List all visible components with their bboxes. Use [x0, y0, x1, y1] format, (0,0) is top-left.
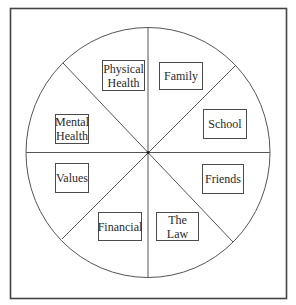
- label-family: Family: [159, 62, 203, 90]
- label-the-law: The Law: [156, 212, 199, 241]
- label-physical-health: Physical Health: [102, 60, 145, 91]
- label-values: Values: [55, 163, 89, 193]
- wheel-center: [147, 151, 150, 154]
- label-financial: Financial: [98, 212, 142, 241]
- wheel-diagram: [0, 0, 296, 305]
- label-friends: Friends: [202, 164, 244, 194]
- label-mental-health: Mental Health: [55, 114, 89, 144]
- label-school: School: [203, 109, 247, 139]
